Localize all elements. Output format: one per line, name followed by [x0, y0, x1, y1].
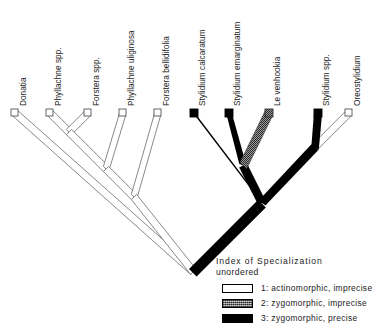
tip-label-stylidium-spp: Stylidium spp.: [323, 54, 331, 106]
legend-entries: 1: actinomorphic, imprecise 2: zygomorph…: [216, 282, 366, 324]
branch-donatia: [12, 110, 196, 274]
tipbox-forstera-bellidifolia: [154, 109, 161, 116]
tipbox-donatia: [11, 109, 18, 116]
tip-label-oreostylidium: Oreostylidium: [354, 55, 362, 106]
branch-internal-E-F: [258, 144, 318, 205]
legend-label-state3: 3: zygomorphic, precise: [261, 313, 358, 323]
legend-row-state3: 3: zygomorphic, precise: [216, 312, 366, 324]
legend-title: Index of Specialization: [216, 256, 366, 266]
tip-label-stylidium-emarginatum: Stylidium emarginatum: [234, 22, 242, 106]
tip-label-stylidium-calcaratum: Stylidium calcaratum: [199, 29, 207, 106]
tipbox-phyllachne-uliginosa: [119, 109, 126, 116]
terminal-boxes: [11, 109, 352, 117]
tipbox-forstera-spp: [84, 109, 91, 116]
tip-label-donatia: Donatia: [20, 77, 28, 106]
branches-state1: [12, 110, 351, 274]
branch-forstera-bellidifolia: [131, 110, 160, 199]
legend-label-state2: 2: zygomorphic, imprecise: [261, 298, 367, 308]
tipbox-stylidium-spp: [314, 109, 322, 117]
legend-swatch-state3: [222, 314, 253, 323]
tipbox-phyllachne-spp: [46, 109, 53, 116]
tip-label-forstera-bellidifolia: Forstera bellidifolia: [163, 36, 171, 106]
legend-swatch-state1: [222, 284, 253, 293]
legend-row-state2: 2: zygomorphic, imprecise: [216, 297, 366, 309]
legend-label-state1: 1: actinomorphic, imprecise: [261, 283, 372, 293]
tipbox-stylidium-emarginatum: [225, 109, 233, 117]
legend: Index of Specialization unordered 1: act…: [216, 256, 366, 327]
tip-label-levenhookia: Le venhookia: [274, 57, 282, 106]
tipbox-levenhookia: [265, 109, 273, 117]
tip-label-phyllachne-uliginosa: Phyllachne uliginosa: [128, 30, 136, 106]
legend-row-state1: 1: actinomorphic, imprecise: [216, 282, 366, 294]
tipbox-stylidium-calcaratum: [190, 109, 198, 117]
branch-leftclade-stem: [131, 194, 196, 274]
tipbox-oreostylidium: [345, 109, 352, 116]
tip-label-forstera-spp: Forstera spp.: [93, 57, 101, 106]
branch-phyllachne-uliginosa: [103, 110, 125, 171]
tip-label-phyllachne-spp: Phyllachne spp.: [55, 47, 63, 106]
legend-swatch-state2: [222, 299, 253, 308]
branch-levenhookia: [240, 110, 272, 168]
legend-subtitle: unordered: [216, 267, 366, 277]
branches-state2: [240, 110, 272, 168]
